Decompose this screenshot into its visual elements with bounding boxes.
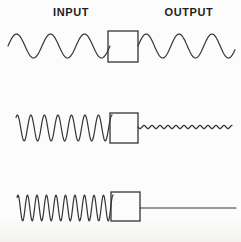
row-1-input-wave [8, 34, 110, 58]
row-2-input-wave [16, 115, 112, 141]
row-2-output-wave [138, 125, 232, 128]
filter-diagram-figure: INPUT OUTPUT [0, 0, 241, 242]
row-1-filter-box [108, 31, 138, 62]
row-2-filter-box [110, 113, 138, 143]
row-3-input-wave [17, 195, 113, 221]
diagram-canvas [0, 0, 241, 242]
row-3-filter-box [111, 192, 140, 221]
row-1-output-wave [138, 34, 235, 58]
